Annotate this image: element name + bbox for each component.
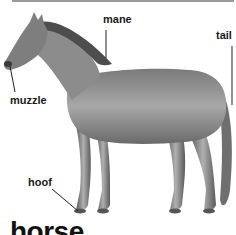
label-muzzle: muzzle <box>10 95 47 106</box>
horse-illustration <box>0 0 236 235</box>
label-hoof: hoof <box>28 177 52 188</box>
entry-word: horse <box>10 218 84 235</box>
label-mane: mane <box>103 14 132 25</box>
muzzle-leader-line <box>10 66 15 92</box>
label-tail: tail <box>216 30 232 41</box>
hoof-leader-line <box>52 189 78 211</box>
